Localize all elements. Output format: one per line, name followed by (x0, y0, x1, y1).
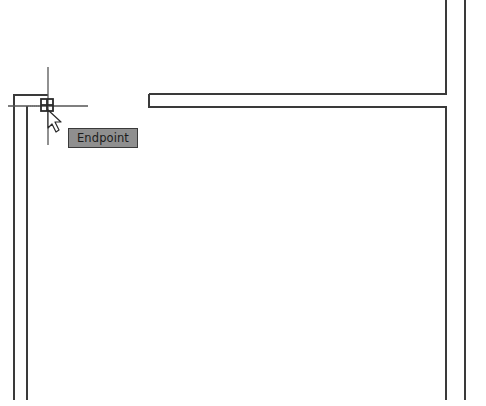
drawing-canvas[interactable] (0, 0, 486, 406)
snap-tooltip: Endpoint (68, 128, 138, 148)
snap-tooltip-label: Endpoint (77, 131, 129, 145)
arrow-cursor-icon (48, 110, 61, 132)
endpoint-snap-icon (41, 99, 53, 111)
horizontal-wall-bottom-line[interactable] (149, 94, 446, 400)
left-wall-outer-line[interactable] (14, 95, 48, 400)
horizontal-wall-top-line[interactable] (149, 0, 446, 94)
